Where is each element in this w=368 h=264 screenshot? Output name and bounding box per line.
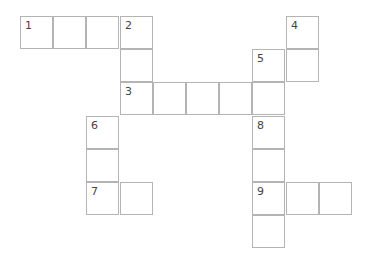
crossword-cell-1[interactable]: 1 [20, 16, 53, 49]
crossword-cell[interactable] [252, 149, 285, 182]
clue-number: 9 [257, 186, 264, 198]
crossword-cell[interactable] [86, 149, 119, 182]
crossword-cell[interactable] [252, 215, 285, 248]
crossword-cell[interactable] [286, 182, 319, 215]
crossword-cell-3[interactable]: 3 [120, 82, 153, 115]
crossword-cell[interactable] [153, 82, 186, 115]
crossword-cell-6[interactable]: 6 [86, 116, 119, 149]
crossword-cell-7[interactable]: 7 [86, 182, 119, 215]
crossword-cell[interactable] [86, 16, 119, 49]
crossword-cell-8[interactable]: 8 [252, 116, 285, 149]
crossword-grid: 124536879 [0, 0, 368, 264]
crossword-cell[interactable] [286, 49, 319, 82]
crossword-cell[interactable] [252, 82, 285, 115]
clue-number: 6 [91, 120, 98, 132]
crossword-cell[interactable] [120, 49, 153, 82]
clue-number: 2 [125, 20, 132, 32]
crossword-cell[interactable] [53, 16, 86, 49]
clue-number: 5 [257, 53, 264, 65]
crossword-cell[interactable] [319, 182, 352, 215]
clue-number: 4 [291, 20, 298, 32]
clue-number: 7 [91, 186, 98, 198]
clue-number: 3 [125, 86, 132, 98]
crossword-cell[interactable] [186, 82, 219, 115]
crossword-cell[interactable] [120, 182, 153, 215]
clue-number: 8 [257, 120, 264, 132]
crossword-cell[interactable] [219, 82, 252, 115]
clue-number: 1 [25, 20, 32, 32]
crossword-cell-4[interactable]: 4 [286, 16, 319, 49]
crossword-cell-2[interactable]: 2 [120, 16, 153, 49]
crossword-cell-9[interactable]: 9 [252, 182, 285, 215]
crossword-cell-5[interactable]: 5 [252, 49, 285, 82]
